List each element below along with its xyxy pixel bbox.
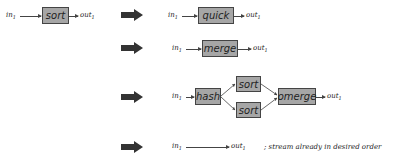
input-label: in1 [172,143,182,151]
fanout-edges [0,0,399,158]
passthrough-note: ; stream already in desired order [264,143,381,151]
output-label: out1 [327,93,342,101]
output-label: out1 [231,143,246,151]
edge [316,97,325,98]
edge [186,147,229,148]
